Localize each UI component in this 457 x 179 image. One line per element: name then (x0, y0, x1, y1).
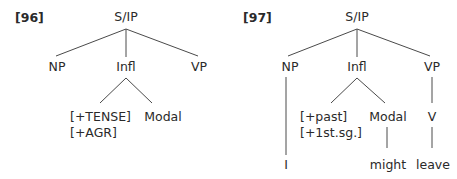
node-infl: Infl (116, 59, 135, 74)
node-infl: Infl (347, 59, 366, 74)
example-number: [96] (15, 10, 44, 25)
feature-agr: [+AGR] (70, 125, 117, 140)
node-np: NP (49, 59, 66, 74)
leaf-might: might (370, 157, 406, 172)
node-np: NP (282, 59, 299, 74)
leaf-i: I (284, 157, 288, 172)
feature-1st-sg: [+1st.sg.] (300, 125, 362, 140)
node-modal: Modal (144, 109, 182, 124)
node-vp: VP (424, 59, 440, 74)
node-modal: Modal (369, 109, 407, 124)
feature-tense: [+TENSE] (70, 109, 131, 124)
tree-branches (0, 0, 457, 179)
leaf-leave: leave (416, 157, 450, 172)
node-v: V (428, 109, 437, 124)
feature-past: [+past] (300, 109, 347, 124)
example-number: [97] (243, 10, 272, 25)
node-s-ip: S/IP (345, 9, 368, 24)
node-vp: VP (191, 59, 207, 74)
node-s-ip: S/IP (114, 9, 137, 24)
